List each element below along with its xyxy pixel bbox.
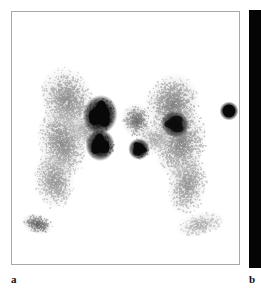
- scintigraphy-figure: a b: [0, 0, 261, 289]
- panel-label-b: b: [249, 274, 255, 285]
- panel-a-scintigram: [11, 11, 240, 265]
- panel-label-a: a: [11, 274, 17, 285]
- scintigram-image: [12, 12, 239, 264]
- panel-b-left-edge: [249, 10, 261, 268]
